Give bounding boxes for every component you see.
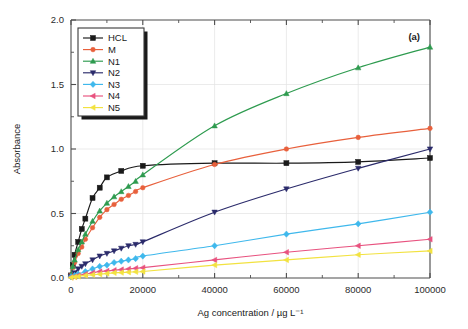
data-point-circle [97,215,102,220]
data-point-circle [356,135,361,140]
y-tick-label: 1.0 [51,143,64,154]
data-point-square [140,163,145,168]
x-tick-label: 100000 [414,284,446,295]
data-point-square [91,36,96,41]
y-axis-title: Absorbance [11,124,22,175]
data-point-square [97,185,102,190]
data-point-circle [119,197,124,202]
data-point-circle [112,202,117,207]
legend[interactable]: HCLMN1N2N3N4N5 [78,28,148,120]
x-axis-title: Ag concentration / µg L⁻¹ [197,307,303,318]
data-point-square [79,226,84,231]
data-point-circle [212,162,217,167]
data-point-circle [284,147,289,152]
legend-label-N2: N2 [108,67,120,78]
legend-label-N3: N3 [108,79,120,90]
x-tick-label: 0 [68,284,73,295]
absorbance-vs-concentration-chart: 0.00.51.01.52.00200004000060000800001000… [0,0,468,329]
y-tick-label: 0.5 [51,208,64,219]
data-point-circle [428,126,433,131]
x-tick-label: 60000 [273,284,299,295]
data-point-circle [141,185,146,190]
data-point-circle [105,207,110,212]
data-point-square [356,159,361,164]
chart-background [0,0,468,329]
data-point-square [83,216,88,221]
data-point-circle [133,189,138,194]
panel-label: (a) [408,31,420,42]
y-tick-label: 0.0 [51,272,64,283]
y-tick-label: 1.5 [51,79,64,90]
data-point-square [428,156,433,161]
data-point-square [90,196,95,201]
data-point-square [104,175,109,180]
data-point-circle [126,193,131,198]
legend-label-HCL: HCL [108,32,127,43]
y-tick-label: 2.0 [51,14,64,25]
x-tick-label: 20000 [130,284,156,295]
data-point-square [119,168,124,173]
x-tick-label: 80000 [345,284,371,295]
data-point-circle [90,225,95,230]
data-point-circle [91,47,96,52]
legend-label-N1: N1 [108,56,120,67]
x-tick-label: 40000 [201,284,227,295]
data-point-square [284,161,289,166]
legend-label-N4: N4 [108,90,120,101]
figure-panel: 0.00.51.01.52.00200004000060000800001000… [0,0,468,329]
legend-label-N5: N5 [108,102,120,113]
legend-label-M: M [108,44,116,55]
